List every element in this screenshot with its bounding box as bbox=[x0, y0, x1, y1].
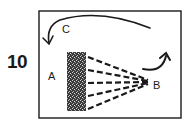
label-c: C bbox=[62, 23, 70, 35]
stippled-block bbox=[67, 52, 86, 111]
label-a: A bbox=[48, 70, 55, 82]
figure-number: 10 bbox=[7, 51, 27, 73]
curved-arrow-c-icon bbox=[43, 16, 150, 45]
diagram-canvas bbox=[0, 0, 189, 129]
dashed-rays bbox=[88, 57, 148, 109]
label-b: B bbox=[153, 79, 160, 91]
curved-arrow-b-icon bbox=[143, 53, 170, 70]
